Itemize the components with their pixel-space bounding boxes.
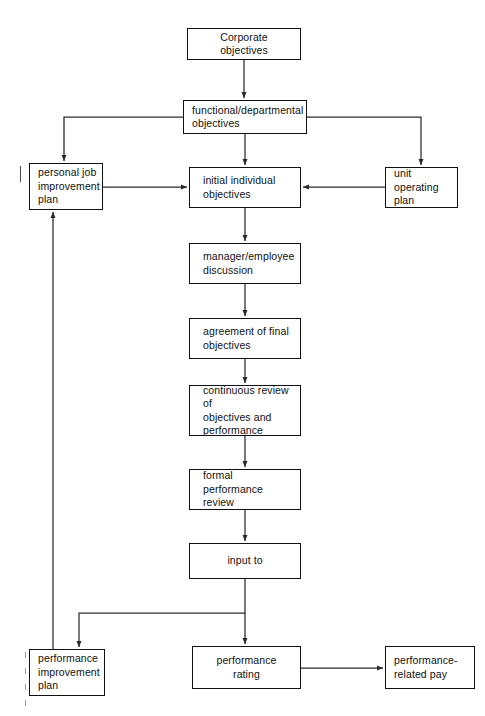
node-unit-operating-plan[interactable]: unit operating plan: [385, 167, 458, 208]
node-initial-individual-objectives[interactable]: initial individual objectives: [189, 167, 301, 208]
node-formal-performance-review[interactable]: formal performance review: [189, 469, 301, 510]
node-manager-employee-discussion[interactable]: manager/employee discussion: [189, 243, 301, 284]
node-agreement-of-final-objectives[interactable]: agreement of final objectives: [189, 318, 301, 359]
scan-artifact-mark-bottom-4: [25, 700, 26, 706]
scan-artifact-mark-bottom-3: [25, 684, 26, 690]
node-functional-departmental-objectives[interactable]: functional/departmental objectives: [183, 100, 307, 134]
node-performance-related-pay[interactable]: performance- related pay: [385, 646, 475, 689]
node-continuous-review[interactable]: continuous review of objectives and perf…: [189, 385, 301, 436]
scan-artifact-mark-bottom: [25, 652, 26, 658]
edge-functional-to-personal-job-plan: [64, 117, 183, 161]
flowchart-diagram: Corporate objectives functional/departme…: [0, 0, 485, 716]
node-performance-improvement-plan[interactable]: performance improvement plan: [29, 649, 105, 696]
node-personal-job-improvement-plan[interactable]: personal job improvement plan: [29, 163, 103, 210]
scan-artifact-mark-bottom-2: [25, 668, 26, 674]
node-performance-rating[interactable]: performance rating: [192, 646, 301, 689]
edge-input-to-to-improvement-plan: [79, 613, 245, 647]
edge-functional-to-unit-operating-plan: [307, 117, 421, 165]
node-input-to[interactable]: input to: [189, 543, 301, 579]
scan-artifact-mark-top: [20, 166, 21, 182]
node-corporate-objectives[interactable]: Corporate objectives: [187, 28, 301, 60]
